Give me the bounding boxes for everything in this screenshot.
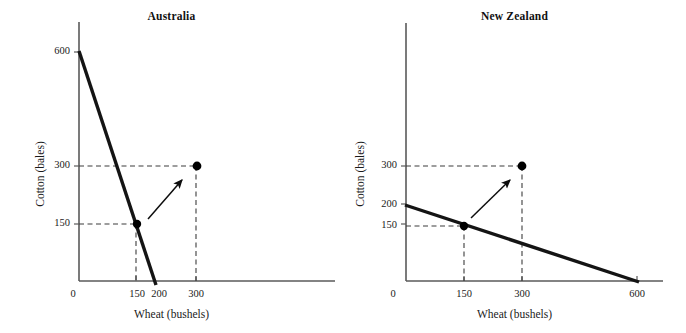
consumption-point [193, 162, 202, 171]
gains-from-trade-arrow [148, 180, 182, 219]
ppf-line [79, 51, 156, 285]
x-axis-title: Wheat (bushels) [343, 308, 686, 320]
x-axis-title: Wheat (bushels) [0, 308, 343, 320]
x-tick-label-600: 600 [621, 288, 653, 299]
gains-from-trade-arrow [471, 180, 510, 218]
y-axis-title: Cotton (bales) [34, 124, 46, 224]
chart-panel-newzealand: New Zealand [343, 0, 686, 333]
x-tick-label-0: 0 [59, 288, 87, 299]
x-tick-label-300: 300 [180, 288, 212, 299]
y-axis-title: Cotton (bales) [354, 124, 366, 224]
x-tick-label-150: 150 [448, 288, 480, 299]
two-panel-ppf-figure: Australia [0, 0, 686, 333]
y-tick-label-600: 600 [30, 45, 70, 56]
x-tick-label-0: 0 [379, 288, 407, 299]
x-tick-label-200: 200 [143, 288, 175, 299]
consumption-point [518, 162, 527, 171]
production-point [460, 222, 468, 230]
production-point [133, 220, 141, 228]
chart-panel-australia: Australia [0, 0, 343, 333]
x-tick-label-300: 300 [506, 288, 538, 299]
